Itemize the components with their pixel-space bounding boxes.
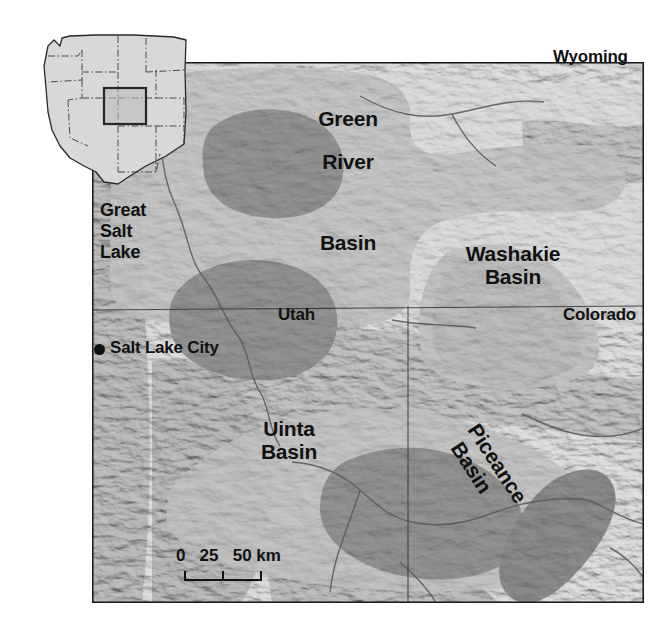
scale-bar: 0 25 50 km (176, 546, 306, 586)
state-label-colorado: Colorado (563, 306, 636, 323)
place-label-great: Great (100, 201, 146, 219)
scale-bar-graphic (184, 570, 262, 581)
basin-label-green: Green (303, 108, 393, 129)
basin-label-uinta-line1: Uinta (241, 418, 337, 439)
scale-bar-tick-50 (260, 571, 262, 581)
scale-bar-numbers: 0 25 50 km (176, 546, 306, 568)
state-label-utah: Utah (278, 306, 315, 323)
scale-bar-tick-25 (222, 571, 224, 581)
place-label-lake: Lake (100, 243, 140, 261)
basin-label-uinta-line2: Basin (241, 441, 337, 462)
state-label-wyoming: Wyoming (553, 48, 628, 65)
basin-label-washakie-line2: Basin (447, 266, 579, 287)
scale-bar-tick-0 (184, 571, 186, 581)
map-figure: Wyoming Utah Colorado Green River Basin … (0, 0, 668, 629)
basin-label-basin: Basin (303, 232, 393, 253)
inset-locator-map[interactable] (26, 26, 212, 193)
basin-label-washakie-line1: Washakie (447, 243, 579, 264)
city-marker-dot (94, 344, 105, 355)
place-label-salt: Salt (100, 222, 132, 240)
place-label-salt-lake-city: Salt Lake City (110, 339, 219, 356)
basin-label-river: River (303, 151, 393, 172)
